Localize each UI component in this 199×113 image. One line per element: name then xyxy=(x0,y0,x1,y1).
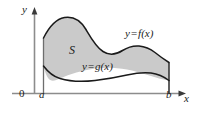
curve-f-label: y=f(x) xyxy=(125,28,153,39)
y-axis-label: y xyxy=(22,4,27,15)
x-tick-label-b: b xyxy=(166,89,172,100)
area-between-curves-figure: y x 0 a b S y=f(x) y=g(x) xyxy=(0,0,199,113)
origin-label: 0 xyxy=(19,88,25,99)
region-label-S: S xyxy=(69,44,75,56)
x-axis-label: x xyxy=(184,93,189,104)
curve-g-label: y=g(x) xyxy=(82,61,113,72)
curve-f-label-rhs: f(x) xyxy=(138,27,153,39)
curve-g-label-equals: = xyxy=(87,60,95,72)
curve-f-label-equals: = xyxy=(130,27,138,39)
x-tick-label-a: a xyxy=(39,89,45,100)
y-axis-arrowhead xyxy=(32,7,38,15)
curve-g-label-rhs: g(x) xyxy=(95,60,113,72)
